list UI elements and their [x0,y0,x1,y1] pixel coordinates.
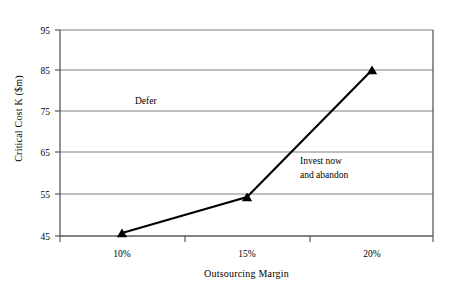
chart-figure: Critical Cost K ($m) 95 [0,0,451,292]
x-tick-label-20pct: 20% [363,249,381,259]
y-tick-label-45: 45 [41,232,51,242]
annotation-and-abandon: and abandon [300,170,349,180]
y-tick-label-95: 95 [41,26,51,36]
y-tick-label-65: 65 [41,148,51,158]
y-tick-marks [55,30,60,236]
annotation-defer: Defer [135,96,157,106]
gridlines [60,30,433,194]
x-tick-labels: 10% 15% 20% [113,249,381,259]
x-axis-title-label: Outsourcing Margin [204,268,289,279]
x-tick-marks [60,236,433,242]
chart-annotations: Defer Invest now and abandon [135,96,349,180]
y-tick-label-85: 85 [41,66,51,76]
plot-area: 95 85 75 65 55 45 10% 15% 20% [0,0,451,292]
y-tick-labels: 95 85 75 65 55 45 [41,26,51,242]
annotation-invest-now: Invest now [300,156,342,166]
x-axis-title: Outsourcing Margin [60,268,433,279]
y-tick-label-75: 75 [41,107,51,117]
data-series-critical-cost [117,66,377,238]
axes-frame [60,30,433,236]
x-tick-label-10pct: 10% [113,249,131,259]
y-tick-label-55: 55 [41,190,51,200]
x-tick-label-15pct: 15% [238,249,256,259]
